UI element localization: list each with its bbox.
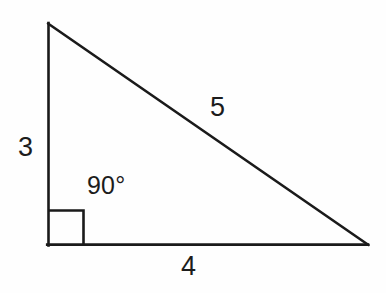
angle-label-90-degrees: 90° xyxy=(87,173,125,198)
side-label-horizontal-leg: 4 xyxy=(181,253,196,280)
right-triangle-figure: 3 90° 5 4 xyxy=(0,0,386,293)
side-label-hypotenuse: 5 xyxy=(210,94,225,121)
right-angle-square-icon xyxy=(48,211,84,246)
side-label-vertical-leg: 3 xyxy=(18,134,33,161)
triangle-svg xyxy=(0,0,386,293)
hypotenuse-line xyxy=(48,24,369,246)
